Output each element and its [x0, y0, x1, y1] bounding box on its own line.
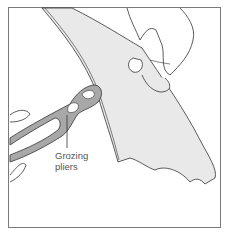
- grozing-illustration: [0, 0, 226, 236]
- pliers-label: Grozing pliers: [55, 150, 88, 172]
- label-line-2: pliers: [55, 161, 88, 172]
- hand-lower: [10, 110, 30, 122]
- label-line-1: Grozing: [55, 150, 88, 161]
